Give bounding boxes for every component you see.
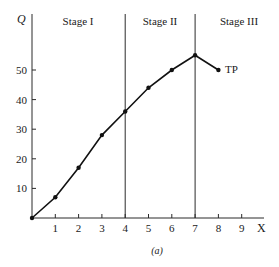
x-tick-label: 9 — [239, 223, 245, 234]
data-point — [170, 68, 174, 72]
data-point — [30, 216, 34, 220]
y-tick-label: 40 — [16, 94, 27, 105]
data-point — [100, 133, 104, 137]
x-tick-label: 1 — [53, 223, 59, 234]
stage-1-label: Stage I — [63, 16, 94, 27]
stage-2-label: Stage II — [143, 16, 178, 27]
x-tick-label: 5 — [146, 223, 152, 234]
data-point — [193, 53, 197, 57]
x-tick-label: 2 — [76, 223, 82, 234]
x-axis-label: X — [257, 222, 266, 234]
x-tick-label: 3 — [99, 223, 105, 234]
figure-caption: (a) — [151, 246, 163, 256]
data-point — [123, 109, 127, 113]
y-tick-label: 50 — [16, 65, 27, 76]
stage-divider-lines — [125, 14, 195, 218]
y-tick-label: 30 — [16, 124, 27, 135]
y-axis-label: Q — [17, 13, 26, 25]
x-tick-label: 8 — [216, 223, 222, 234]
data-point — [146, 86, 150, 90]
data-point — [76, 165, 80, 169]
x-tick-label: 6 — [169, 223, 175, 234]
x-tick-label: 4 — [122, 223, 128, 234]
tp-curve-label: TP — [225, 64, 238, 75]
total-product-chart — [0, 0, 279, 267]
axes — [32, 14, 264, 218]
data-point — [216, 68, 220, 72]
stage-3-label: Stage III — [220, 16, 258, 27]
x-tick-label: 7 — [192, 223, 198, 234]
y-tick-label: 10 — [16, 183, 27, 194]
data-point — [53, 195, 57, 199]
y-tick-label: 20 — [16, 153, 27, 164]
